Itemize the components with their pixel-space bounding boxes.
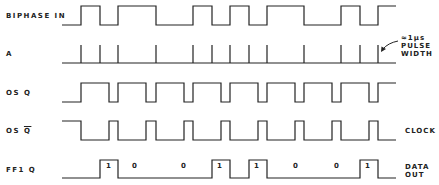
signal-label-biphase-in: BIPHASE IN: [6, 12, 66, 20]
waveform-1: [62, 45, 396, 63]
pulse-width-value: ≈1µs: [401, 34, 433, 42]
waveform-4: [62, 160, 396, 178]
data-bit: 1: [365, 162, 370, 170]
data-bit: 0: [132, 162, 137, 170]
waveforms: [62, 6, 396, 178]
data-out-annotation: DATA OUT: [405, 163, 429, 179]
data-bit: 0: [293, 162, 298, 170]
waveform-3: [62, 121, 396, 140]
signal-label-os-q-bar: OS Q: [6, 127, 31, 135]
data-out-line2: OUT: [405, 171, 429, 179]
q-bar: Q: [24, 127, 31, 135]
data-bit: 0: [181, 162, 186, 170]
clock-annotation: CLOCK: [405, 127, 436, 135]
pulse-width-arrow-icon: [383, 41, 398, 49]
data-bit: 1: [106, 162, 111, 170]
data-out-line1: DATA: [405, 163, 429, 171]
pulse-width-line2: PULSE: [401, 42, 433, 50]
pulse-width-annotation: ≈1µs PULSE WIDTH: [401, 34, 433, 58]
waveform-2: [62, 83, 396, 102]
waveform-0: [62, 6, 396, 25]
timing-diagram: [0, 0, 439, 185]
signal-label-ff1-q: FF1 Q: [6, 166, 36, 174]
pulse-width-line3: WIDTH: [401, 50, 433, 58]
signal-label-os-q: OS Q: [6, 89, 31, 97]
os-prefix: OS: [6, 127, 24, 135]
signal-label-a: A: [6, 50, 13, 58]
data-bit: 1: [217, 162, 222, 170]
data-bit: 0: [334, 162, 339, 170]
data-bit: 1: [254, 162, 259, 170]
